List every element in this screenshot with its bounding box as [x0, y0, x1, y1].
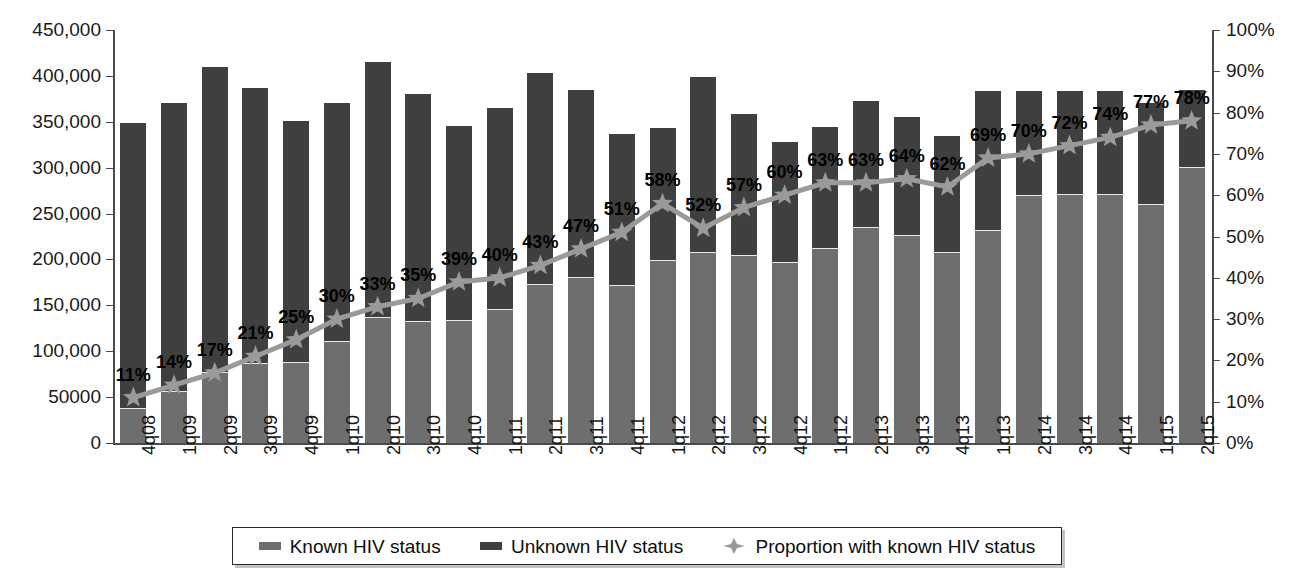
bar-column[interactable]: [690, 0, 716, 584]
x-axis-tick-label: 1q12: [670, 415, 688, 455]
x-axis-tick-label: 2q13: [873, 415, 891, 455]
data-label-proportion: 43%: [514, 233, 566, 251]
y2-axis-tick-label: 20%: [1226, 350, 1264, 369]
legend-label-proportion: Proportion with known HIV status: [755, 537, 1035, 556]
data-label-proportion: 52%: [677, 196, 729, 214]
y-axis-tick: [106, 351, 113, 352]
x-axis-tick-label: 1q11: [507, 416, 525, 455]
y2-axis-tick-label: 10%: [1226, 392, 1264, 411]
bar-segment-unknown: [446, 126, 472, 321]
bar-segment-known: [1179, 167, 1205, 443]
y2-axis-tick-label: 40%: [1226, 268, 1264, 287]
y-axis-tick: [106, 259, 113, 260]
data-label-proportion: 35%: [392, 266, 444, 284]
bar-column[interactable]: [1097, 0, 1123, 584]
bar-column[interactable]: [161, 0, 187, 584]
legend-item-proportion[interactable]: Proportion with known HIV status: [722, 537, 1035, 556]
x-axis-tick-label: 2q14: [1036, 415, 1054, 455]
x-axis-tick-label: 2q09: [222, 415, 240, 455]
y-axis-tick: [106, 76, 113, 77]
bar-column[interactable]: [487, 0, 513, 584]
bar-segment-known: [1016, 195, 1042, 443]
x-axis-tick-label: 1q13: [995, 415, 1013, 455]
square-swatch-icon: [259, 542, 281, 550]
chart-legend: Known HIV status Unknown HIV status Prop…: [232, 527, 1062, 565]
x-axis-tick-label: 2q11: [547, 416, 565, 455]
y-axis-tick: [106, 397, 113, 398]
bar-column[interactable]: [405, 0, 431, 584]
bar-column[interactable]: [446, 0, 472, 584]
y2-axis-tick: [1213, 237, 1220, 238]
data-label-proportion: 21%: [229, 324, 281, 342]
bar-segment-unknown: [1138, 103, 1164, 205]
bar-column[interactable]: [853, 0, 879, 584]
bar-column[interactable]: [568, 0, 594, 584]
bar-segment-unknown: [568, 90, 594, 278]
bar-segment-unknown: [202, 67, 228, 374]
bar-segment-unknown: [650, 128, 676, 261]
legend-label-unknown: Unknown HIV status: [511, 537, 683, 556]
bar-segment-unknown: [283, 121, 309, 363]
x-axis-tick-label: 4q11: [629, 416, 647, 455]
y2-axis-tick-label: 70%: [1226, 144, 1264, 163]
bar-column[interactable]: [1057, 0, 1083, 584]
y-axis-tick-label: 200,000: [32, 249, 101, 268]
bar-column[interactable]: [202, 0, 228, 584]
bar-column[interactable]: [120, 0, 146, 584]
y-axis-tick-label: 100,000: [32, 341, 101, 360]
y2-axis-tick-label: 0%: [1226, 433, 1253, 452]
bar-segment-unknown: [894, 117, 920, 235]
x-axis-tick-label: 3q11: [588, 416, 606, 455]
y-axis-tick: [106, 305, 113, 306]
bar-column[interactable]: [242, 0, 268, 584]
legend-item-known[interactable]: Known HIV status: [259, 537, 441, 556]
x-axis-tick-label: 2q10: [385, 415, 403, 455]
y2-axis-tick: [1213, 30, 1220, 31]
bar-column[interactable]: [527, 0, 553, 584]
bar-segment-known: [812, 248, 838, 443]
bar-column[interactable]: [812, 0, 838, 584]
data-label-proportion: 62%: [921, 155, 973, 173]
bar-column[interactable]: [731, 0, 757, 584]
y2-axis-tick: [1213, 402, 1220, 403]
x-axis-tick-label: 2q12: [710, 415, 728, 455]
bar-column[interactable]: [772, 0, 798, 584]
x-axis-tick-label: 3q14: [1077, 415, 1095, 455]
bar-column[interactable]: [283, 0, 309, 584]
x-axis-tick-label: 3q12: [751, 415, 769, 455]
y-axis-tick: [106, 122, 113, 123]
y-axis-tick-label: 350,000: [32, 112, 101, 131]
y2-axis-tick-label: 60%: [1226, 185, 1264, 204]
y-axis-tick-label: 450,000: [32, 20, 101, 39]
bar-segment-unknown: [975, 91, 1001, 232]
bar-column[interactable]: [975, 0, 1001, 584]
square-swatch-icon: [480, 542, 502, 550]
x-axis-tick-label: 1q12: [832, 415, 850, 455]
bar-column[interactable]: [609, 0, 635, 584]
bar-column[interactable]: [1138, 0, 1164, 584]
bar-column[interactable]: [1016, 0, 1042, 584]
x-axis-tick-label: 3q10: [425, 415, 443, 455]
bar-segment-unknown: [772, 142, 798, 263]
x-axis-tick-label: 2q15: [1199, 415, 1217, 455]
y2-axis-tick: [1213, 154, 1220, 155]
y2-axis-tick-label: 50%: [1226, 227, 1264, 246]
bar-segment-unknown: [161, 103, 187, 391]
data-label-proportion: 17%: [189, 341, 241, 359]
y2-axis-tick-label: 90%: [1226, 61, 1264, 80]
x-axis-tick-label: 4q10: [466, 415, 484, 455]
bar-column[interactable]: [934, 0, 960, 584]
data-label-proportion: 51%: [596, 200, 648, 218]
legend-item-unknown[interactable]: Unknown HIV status: [480, 537, 683, 556]
legend-label-known: Known HIV status: [290, 537, 441, 556]
bar-segment-unknown: [487, 108, 513, 310]
y-axis-tick: [106, 214, 113, 215]
y2-axis-tick-label: 30%: [1226, 309, 1264, 328]
bar-column[interactable]: [894, 0, 920, 584]
y2-axis-tick: [1213, 71, 1220, 72]
bar-column[interactable]: [650, 0, 676, 584]
y2-axis-tick-label: 80%: [1226, 103, 1264, 122]
y-axis-tick-label: 250,000: [32, 204, 101, 223]
y2-axis-tick: [1213, 113, 1220, 114]
x-axis-tick-label: 3q13: [914, 415, 932, 455]
